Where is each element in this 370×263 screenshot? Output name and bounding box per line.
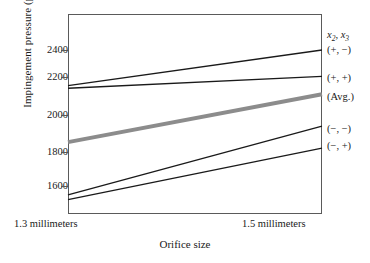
series-line-0	[68, 50, 322, 86]
interaction-plot: Impingement pressure (psi) 2400 2200 200…	[0, 0, 370, 263]
legend-entry-plus-plus: (+, +)	[327, 73, 351, 84]
legend-entry-minus-minus: (−, −)	[327, 124, 351, 135]
x-tick-label-left: 1.3 millimeters	[14, 218, 78, 229]
legend-header: x2, x3	[327, 30, 349, 43]
legend-entry-minus-plus: (−, +)	[327, 141, 351, 152]
series-line-4	[68, 148, 322, 200]
x-tick-label-right: 1.5 millimeters	[242, 218, 306, 229]
legend-entry-plus-minus: (+, −)	[327, 45, 351, 56]
legend-header-x2-x3: x2, x3	[327, 29, 349, 40]
x-axis-title: Orifice size	[0, 238, 370, 250]
legend-entry-avg: (Avg.)	[327, 92, 354, 103]
series-line-1	[68, 76, 322, 88]
series-line-2	[68, 94, 322, 142]
